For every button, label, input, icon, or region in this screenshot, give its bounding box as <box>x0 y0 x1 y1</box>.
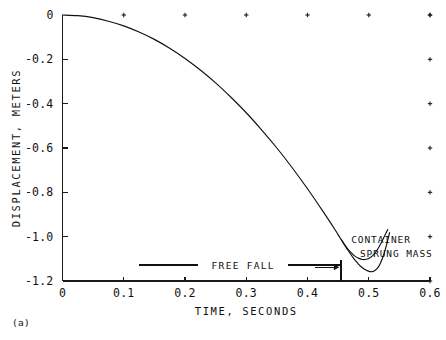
y-tick-label: -0.4 <box>25 97 54 111</box>
free-fall-label: FREE FALL <box>212 260 275 271</box>
right-edge-tick-icon <box>428 101 432 105</box>
x-tick-label: 0.5 <box>358 286 379 300</box>
series-label-container: CONTAINER <box>351 234 411 245</box>
panel-label: (a) <box>12 317 30 328</box>
right-edge-tick-icon <box>428 190 432 194</box>
y-tick-label: -1.0 <box>25 230 54 244</box>
x-tick-label: 0.4 <box>297 286 318 300</box>
y-tick-label: -0.2 <box>25 52 54 66</box>
x-axis-title: TIME, SECONDS <box>195 305 298 317</box>
right-edge-tick-icon <box>428 279 432 283</box>
figure-panel: 00.10.20.30.40.50.60-0.2-0.4-0.6-0.8-1.0… <box>0 0 446 340</box>
x-tick-label: 0.3 <box>236 286 257 300</box>
y-tick-label: -0.8 <box>25 185 54 199</box>
curve-container <box>63 15 388 260</box>
series-label-sprung-mass: SPRUNG MASS <box>360 248 433 259</box>
right-edge-tick-icon <box>428 234 432 238</box>
data-curves-group: CONTAINERSPRUNG MASS <box>63 15 433 272</box>
y-axis-title: DISPLACEMENT, METERS <box>10 69 22 227</box>
right-edge-tick-icon <box>428 13 432 17</box>
y-tick-label: -0.6 <box>25 141 54 155</box>
top-edge-tick-icon <box>244 13 248 17</box>
top-edge-tick-icon <box>183 13 187 17</box>
right-edge-tick-icon <box>428 57 432 61</box>
right-edge-tick-icon <box>428 146 432 150</box>
annotations-group: FREE FALL <box>139 260 341 281</box>
x-tick-label: 0.2 <box>174 286 195 300</box>
x-tick-label: 0 <box>59 286 66 300</box>
x-tick-label: 0.6 <box>419 286 440 300</box>
x-tick-label: 0.1 <box>113 286 134 300</box>
y-tick-label: 0 <box>46 8 53 22</box>
top-edge-tick-icon <box>367 13 371 17</box>
displacement-time-chart: 00.10.20.30.40.50.60-0.2-0.4-0.6-0.8-1.0… <box>0 0 446 340</box>
top-edge-tick-icon <box>122 13 126 17</box>
y-tick-label: -1.2 <box>25 274 54 288</box>
top-edge-tick-icon <box>305 13 309 17</box>
